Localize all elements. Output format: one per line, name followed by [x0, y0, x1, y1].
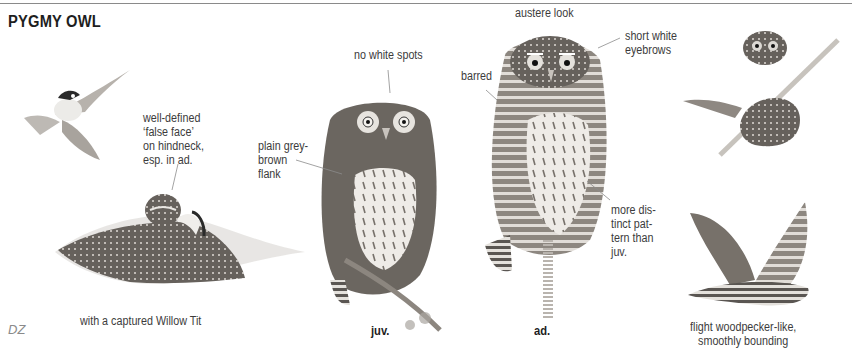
annotation-short-eyebrows: short white eyebrows — [625, 29, 677, 57]
leader-false-face — [172, 164, 178, 190]
owl-flight — [688, 202, 809, 306]
caption-ad: ad. — [534, 323, 550, 338]
caption-prey: with a captured Willow Tit — [80, 314, 201, 328]
leader-no-white-spots — [388, 70, 390, 93]
willow-tit-flying — [24, 70, 130, 160]
owl-adult — [485, 36, 607, 320]
caption-juv: juv. — [371, 323, 389, 338]
annotation-no-white-spots: no white spots — [354, 48, 423, 62]
caption-flight: flight woodpecker-like, smoothly boundin… — [690, 320, 796, 348]
illustration-plate — [0, 0, 852, 355]
owl-perched-branch — [683, 31, 838, 155]
leader-eyebrows — [598, 38, 620, 48]
annotation-barred: barred — [461, 69, 492, 83]
annotation-false-face: well-defined ‘false face’ on hindneck, e… — [143, 111, 204, 167]
annotation-plain-flank: plain grey- brown flank — [258, 139, 308, 181]
owl-with-prey — [55, 194, 305, 284]
owl-juvenile — [322, 103, 440, 330]
leader-barred — [486, 90, 497, 100]
annotation-more-distinct: more dis- tinct pat- tern than juv. — [611, 203, 656, 259]
annotation-austere-look: austere look — [515, 6, 574, 20]
artist-credit: DZ — [8, 322, 25, 337]
